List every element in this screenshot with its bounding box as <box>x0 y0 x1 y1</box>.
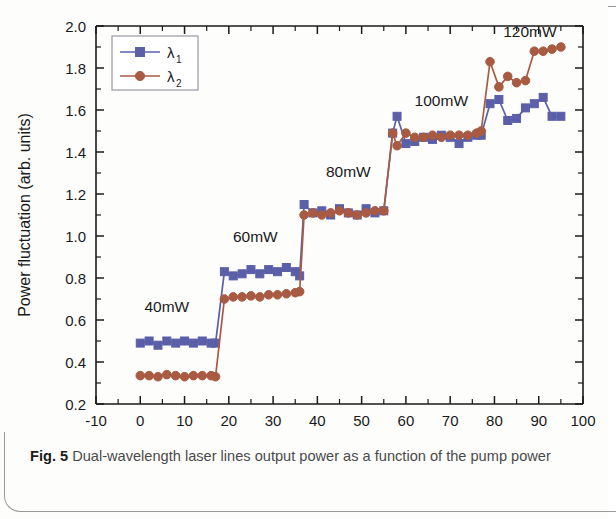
data-point-2 <box>371 207 380 216</box>
data-point-1 <box>163 337 171 345</box>
data-point-2 <box>464 131 473 140</box>
data-point-1 <box>229 272 237 280</box>
data-point-2 <box>379 207 388 216</box>
svg-text:2.0: 2.0 <box>65 18 86 35</box>
data-point-1 <box>256 270 264 278</box>
data-point-1 <box>393 112 401 120</box>
svg-text:90: 90 <box>530 412 547 429</box>
data-point-2 <box>198 371 207 380</box>
annotation-120mw: 120mW <box>503 23 557 40</box>
data-point-2 <box>486 57 495 66</box>
data-point-2 <box>163 370 172 379</box>
data-point-2 <box>171 371 180 380</box>
data-point-1 <box>274 268 282 276</box>
data-point-2 <box>238 293 247 302</box>
data-point-1 <box>220 268 228 276</box>
svg-text:80: 80 <box>486 412 503 429</box>
data-point-2 <box>326 209 335 218</box>
data-point-1 <box>145 337 153 345</box>
data-point-2 <box>539 47 548 56</box>
data-point-2 <box>410 133 419 142</box>
y-axis-title: Power fluctuation (arb. units) <box>16 113 33 317</box>
legend-label-1: λ <box>167 44 175 61</box>
data-point-2 <box>402 129 411 138</box>
svg-text:0.6: 0.6 <box>65 312 86 329</box>
data-point-2 <box>393 141 402 150</box>
data-point-1 <box>557 112 565 120</box>
data-point-2 <box>477 127 486 136</box>
data-point-2 <box>362 209 371 218</box>
data-point-2 <box>211 372 220 381</box>
data-point-1 <box>486 100 494 108</box>
data-point-1 <box>136 339 144 347</box>
line-chart: 0.20.40.60.81.01.21.41.61.82.0-100102030… <box>0 0 608 432</box>
svg-text:50: 50 <box>353 412 370 429</box>
chart-legend: λ1λ2 <box>112 36 198 90</box>
data-point-2 <box>264 291 273 300</box>
svg-text:100: 100 <box>570 412 595 429</box>
annotation-40mw: 40mW <box>144 298 189 315</box>
data-point-2 <box>282 289 291 298</box>
annotation-80mw: 80mW <box>326 163 371 180</box>
svg-text:1.2: 1.2 <box>65 186 86 203</box>
data-point-2 <box>317 211 326 220</box>
data-point-1 <box>189 339 197 347</box>
data-point-2 <box>446 131 455 140</box>
data-point-2 <box>353 211 362 220</box>
data-point-1 <box>495 96 503 104</box>
svg-text:-10: -10 <box>85 412 107 429</box>
legend-label-2: λ <box>167 68 175 85</box>
svg-text:0.8: 0.8 <box>65 270 86 287</box>
legend-marker-lambda1 <box>136 48 145 57</box>
svg-text:60: 60 <box>398 412 415 429</box>
data-point-1 <box>154 341 162 349</box>
data-point-1 <box>504 117 512 125</box>
data-point-2 <box>229 293 238 302</box>
data-point-2 <box>300 211 309 220</box>
data-point-1 <box>238 270 246 278</box>
data-point-1 <box>530 100 538 108</box>
data-point-2 <box>273 291 282 300</box>
data-point-2 <box>495 83 504 92</box>
data-point-2 <box>295 287 304 296</box>
annotation-60mw: 60mW <box>233 228 278 245</box>
data-point-2 <box>145 371 154 380</box>
svg-text:0.2: 0.2 <box>65 396 86 413</box>
data-point-2 <box>530 47 539 56</box>
data-point-2 <box>189 371 198 380</box>
data-point-1 <box>265 266 273 274</box>
data-point-2 <box>557 43 566 52</box>
data-point-2 <box>180 372 189 381</box>
data-point-2 <box>220 295 229 304</box>
data-point-2 <box>437 133 446 142</box>
data-point-1 <box>513 114 521 122</box>
legend-marker-lambda2 <box>135 71 144 80</box>
data-point-2 <box>154 372 163 381</box>
data-point-1 <box>455 140 463 148</box>
data-point-1 <box>548 112 556 120</box>
figure-image: 0.20.40.60.81.01.21.41.61.82.0-100102030… <box>0 0 608 432</box>
svg-text:40: 40 <box>309 412 326 429</box>
data-point-1 <box>402 140 410 148</box>
data-point-2 <box>309 209 318 218</box>
data-point-2 <box>548 45 557 54</box>
svg-text:1.8: 1.8 <box>65 60 86 77</box>
data-point-2 <box>335 207 344 216</box>
data-point-1 <box>198 337 206 345</box>
data-point-1 <box>521 104 529 112</box>
data-point-1 <box>282 264 290 272</box>
svg-text:1.4: 1.4 <box>65 144 86 161</box>
data-point-2 <box>419 133 428 142</box>
data-point-1 <box>172 339 180 347</box>
data-point-2 <box>344 209 353 218</box>
annotation-100mw: 100mW <box>415 92 469 109</box>
data-point-2 <box>388 129 397 138</box>
data-point-1 <box>247 266 255 274</box>
svg-text:20: 20 <box>220 412 237 429</box>
svg-text:30: 30 <box>265 412 282 429</box>
data-point-2 <box>428 131 437 140</box>
svg-text:70: 70 <box>442 412 459 429</box>
data-point-2 <box>503 72 512 81</box>
svg-text:0.4: 0.4 <box>65 354 86 371</box>
